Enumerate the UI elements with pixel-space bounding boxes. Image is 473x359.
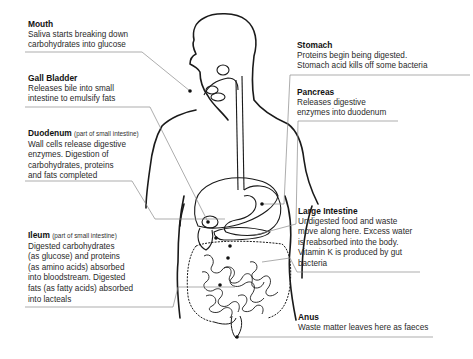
label-body: Digested carbohydrates (as glucose) and …: [28, 242, 178, 306]
pancreas-pointer-dot: [228, 244, 232, 248]
label-subtitle: (part of small intestine): [74, 130, 139, 137]
label-body: Releases bile into small intestine to em…: [28, 84, 178, 105]
label-gall-bladder: Gall Bladder Releases bile into small in…: [28, 73, 178, 105]
anus-pointer-dot: [235, 335, 239, 339]
small-intestine-coils: [202, 255, 278, 318]
label-large-intestine: Large Intestine Undigested food and wast…: [298, 206, 473, 270]
oral-cavity: [204, 65, 244, 190]
label-title: Anus: [298, 312, 473, 323]
label-body: Waste matter leaves here as faeces: [298, 323, 473, 334]
label-pancreas: Pancreas Releases digestive enzymes into…: [297, 87, 472, 119]
large-intestine-shape: [187, 241, 290, 338]
label-body: Undigested food and waste move along her…: [298, 217, 473, 270]
label-title: Gall Bladder: [28, 73, 178, 84]
label-body: Saliva starts breaking down carbohydrate…: [28, 30, 178, 51]
label-body: Wall cells release digestive enzymes. Di…: [28, 140, 178, 182]
ileum-pointer-dot: [218, 283, 222, 287]
label-title: Large Intestine: [298, 206, 473, 217]
label-body: Proteins begin being digested. Stomach a…: [297, 51, 472, 72]
label-title: Mouth: [28, 19, 178, 30]
label-mouth: Mouth Saliva starts breaking down carboh…: [28, 19, 178, 51]
label-anus: Anus Waste matter leaves here as faeces: [298, 312, 473, 333]
label-duodenum: Duodenum (part of small intestine) Wall …: [28, 128, 178, 182]
duodenum-pointer-dot: [214, 236, 218, 240]
label-ileum: Ileum (part of small intestine) Digested…: [28, 230, 178, 305]
label-title: Pancreas: [297, 87, 472, 98]
gall-bladder-pointer-dot: [206, 220, 210, 224]
stomach-pointer-dot: [260, 202, 264, 206]
label-title: Duodenum: [28, 128, 72, 138]
label-title: Ileum: [28, 230, 50, 240]
label-subtitle: (part of small intestine): [52, 232, 117, 239]
mouth-pointer-dot: [188, 89, 192, 93]
label-body: Releases digestive enzymes into duodenum: [297, 98, 472, 119]
large-intestine-pointer-dot: [226, 256, 230, 260]
label-stomach: Stomach Proteins begin being digested. S…: [297, 40, 472, 72]
label-title: Stomach: [297, 40, 472, 51]
